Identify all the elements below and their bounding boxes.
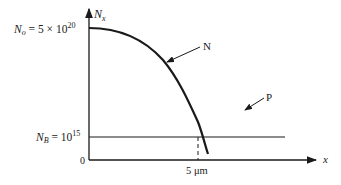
background-concentration-label: NB = 1015 xyxy=(35,129,80,145)
x-axis-label: x xyxy=(322,153,328,165)
junction-depth-label: 5 μm xyxy=(186,165,208,176)
line-label-p: P xyxy=(266,91,272,103)
p-pointer-arrow xyxy=(245,98,264,110)
doping-profile-diagram: Nx No = 5 × 1020 NB = 1015 0 x N P 5 μm xyxy=(0,0,341,185)
y-axis-label: Nx xyxy=(93,7,106,23)
surface-concentration-label: No = 5 × 1020 xyxy=(13,21,75,37)
curve-label-n: N xyxy=(203,40,211,52)
diffusion-profile-curve xyxy=(89,28,208,154)
origin-label: 0 xyxy=(80,155,85,166)
n-pointer-arrow xyxy=(167,47,200,62)
